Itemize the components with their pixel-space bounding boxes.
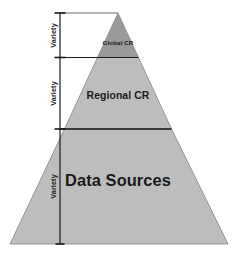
band-label-regional-cr: Regional CR	[56, 91, 180, 101]
diagram-canvas: Global CR Regional CR Data Sources Varie…	[0, 0, 244, 256]
band-label-data-sources: Data Sources	[44, 172, 192, 188]
variety-label-top: Variety	[49, 6, 58, 66]
variety-label-middle: Variety	[49, 63, 58, 123]
variety-label-bottom: Variety	[49, 157, 58, 217]
pyramid-band-global-cr	[98, 13, 139, 58]
band-label-global-cr: Global CR	[84, 40, 152, 46]
